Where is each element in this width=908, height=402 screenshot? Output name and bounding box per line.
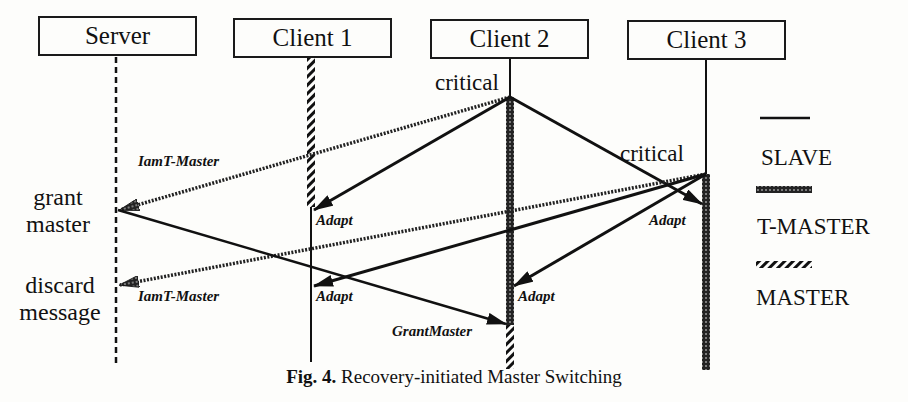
message-m4-wavy <box>120 174 706 285</box>
message-m3-label: Adapt <box>649 212 686 229</box>
legend-master-label: MASTER <box>756 285 849 311</box>
client3-tmaster-segment <box>702 174 710 370</box>
server-grant-line1: grant <box>18 184 98 211</box>
client1-master-segment <box>307 57 315 207</box>
message-m4-label: IamT-Master <box>138 288 219 305</box>
sequence-diagram-canvas <box>0 0 908 402</box>
legend-slave-label: SLAVE <box>761 145 832 171</box>
legend-master-line <box>756 261 812 268</box>
participant-server-label: Server <box>85 22 150 50</box>
figure-caption-text: Recovery-initiated Master Switching <box>341 366 622 387</box>
legend-tmaster-line <box>756 186 812 193</box>
server-grant-master-label: grant master <box>18 184 98 238</box>
client3-critical-label: critical <box>620 141 684 167</box>
participant-client-3: Client 3 <box>627 20 786 60</box>
figure-caption: Fig. 4. Recovery-initiated Master Switch… <box>0 366 908 388</box>
figure-caption-prefix: Fig. 4. <box>286 366 336 387</box>
message-m2 <box>314 97 510 210</box>
participant-server: Server <box>38 16 197 56</box>
participant-client-2-label: Client 2 <box>470 25 550 53</box>
client2-critical-label: critical <box>435 70 499 96</box>
legend-tmaster-label: T-MASTER <box>757 214 870 240</box>
message-m5-label: Adapt <box>316 288 353 305</box>
message-m2-label: Adapt <box>316 212 353 229</box>
client2-master-segment <box>506 325 514 369</box>
server-discard-message-label: discard message <box>14 272 106 326</box>
participant-client-3-label: Client 3 <box>667 26 747 54</box>
message-m6 <box>514 174 706 286</box>
server-discard-line2: message <box>14 299 106 326</box>
participant-client-2: Client 2 <box>430 19 589 59</box>
server-discard-line1: discard <box>14 272 106 299</box>
participant-client-1-label: Client 1 <box>273 24 353 52</box>
participant-client-1: Client 1 <box>233 18 392 58</box>
message-m1-label: IamT-Master <box>138 153 219 170</box>
server-grant-line2: master <box>18 211 98 238</box>
message-m7-label: GrantMaster <box>392 323 472 340</box>
message-m6-label: Adapt <box>518 288 555 305</box>
